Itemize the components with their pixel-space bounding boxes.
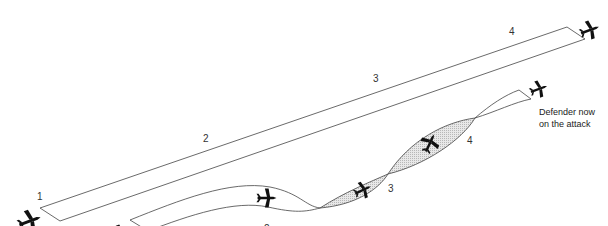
defender-aircraft-end-icon	[527, 78, 550, 100]
defender-caption-line1: Defender now	[539, 107, 596, 117]
defender-label-3: 3	[388, 183, 394, 194]
defender-caption-line2: on the attack	[539, 119, 591, 129]
defender-flight-path	[130, 90, 531, 226]
enemy-aircraft-start-icon	[14, 207, 44, 226]
enemy-label-3: 3	[373, 73, 379, 84]
enemy-label-4: 4	[509, 26, 515, 37]
defender-aircraft-roll2-icon	[257, 189, 277, 208]
enemy-label-2: 2	[203, 133, 209, 144]
enemy-aircraft-end-icon	[577, 18, 602, 43]
enemy-label-1: 1	[37, 191, 43, 202]
snap-roll-diagram: 1 2 3 4 1 2 3 4 Enemy aircraft Defender …	[0, 0, 608, 226]
defender-label-2: 2	[264, 223, 270, 226]
roll-lobe-4	[388, 118, 475, 174]
defender-label-4: 4	[467, 135, 473, 146]
enemy-flight-path	[40, 27, 585, 221]
defender-aircraft-start-icon	[108, 222, 133, 226]
